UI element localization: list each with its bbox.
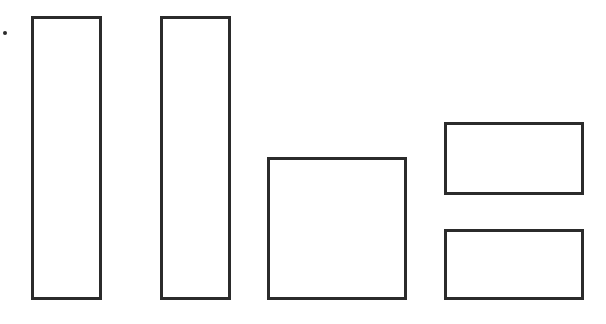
- square-box: [267, 157, 407, 300]
- tall-bar-middle: [160, 16, 231, 300]
- tall-bar-left: [31, 16, 102, 300]
- rect-bottom-right: [444, 229, 584, 300]
- bullet-dot: [3, 31, 7, 35]
- rect-top-right: [444, 122, 584, 195]
